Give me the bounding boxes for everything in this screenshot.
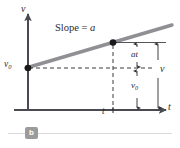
marker-y-intercept [25, 65, 32, 72]
slope-annotation-variable: a [90, 22, 95, 33]
bracket-v0-label-subscript: 0 [135, 85, 138, 91]
figure-panel: v t Slope = a v0 at v0 v t b [0, 0, 180, 148]
velocity-line [26, 25, 172, 68]
bracket-v-label: v [160, 64, 164, 74]
y-intercept-label: v0 [4, 60, 11, 70]
x-axis-label: t [168, 102, 171, 112]
slope-annotation: Slope = a [55, 23, 95, 34]
marker-point-at-t [110, 39, 117, 46]
bracket-at-label: at [131, 50, 138, 59]
y-axis-label: v [21, 4, 25, 14]
x-tick-label: t [102, 107, 105, 117]
bracket-v0-label: v0 [131, 81, 138, 91]
slope-annotation-text: Slope = [55, 22, 90, 33]
y-intercept-label-subscript: 0 [8, 63, 11, 70]
panel-label-badge: b [25, 127, 38, 139]
